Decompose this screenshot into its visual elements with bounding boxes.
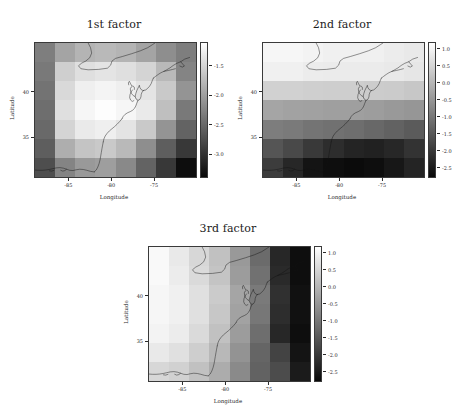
- heatmap-cell: [384, 120, 404, 139]
- heatmap-cell: [169, 304, 189, 323]
- heatmap-cell: [384, 100, 404, 119]
- heatmap-cell: [270, 304, 290, 323]
- colorbar-tick: -2.0: [437, 148, 452, 154]
- heatmap-cell: [156, 120, 176, 139]
- tick-mark: [437, 65, 440, 66]
- heatmap-cell: [176, 62, 196, 81]
- colorbar-tick-label: 0.0: [442, 80, 450, 86]
- colorbar-tick-label: -2.0: [442, 148, 452, 154]
- heatmap-cell: [75, 100, 95, 119]
- figure-canvas: 1st factor 4035 Latitude -85-80-75 Longi…: [0, 0, 456, 418]
- heatmap-cell: [270, 343, 290, 362]
- heatmap-cell: [230, 247, 250, 266]
- colorbar-tick-label: -3.0: [214, 151, 224, 157]
- heatmap-cell: [404, 62, 424, 81]
- heatmap-cell: [75, 158, 95, 177]
- colorbar-tick-label: 1.0: [442, 46, 450, 52]
- colorbar-tick-label: -1.5: [328, 335, 338, 341]
- heatmap-cell: [35, 81, 55, 100]
- panel-2-x-axis: -85-80-75: [262, 178, 425, 192]
- heatmap-cell: [55, 158, 75, 177]
- heatmap-cell: [149, 285, 169, 304]
- colorbar-tick: -1.0: [323, 318, 338, 324]
- tick-mark: [209, 95, 212, 96]
- heatmap-cell: [323, 158, 343, 177]
- tick-mark: [259, 137, 262, 138]
- heatmap-cell: [75, 62, 95, 81]
- panel-3-colorbar-gradient: [315, 247, 321, 381]
- heatmap-cell: [323, 100, 343, 119]
- tick-mark: [323, 252, 326, 253]
- tick-mark: [145, 341, 148, 342]
- tick-mark: [225, 382, 226, 385]
- heatmap-cell: [323, 62, 343, 81]
- tick-mark: [209, 154, 212, 155]
- panel-2-y-axis-label: Latitude: [237, 88, 243, 128]
- colorbar-tick: -1.0: [437, 114, 452, 120]
- panel-3-x-axis-label: Longitude: [114, 398, 342, 404]
- heatmap-cell: [364, 100, 384, 119]
- tick-mark: [111, 178, 112, 181]
- heatmap-cell: [136, 81, 156, 100]
- x-axis-tick: -85: [292, 178, 300, 188]
- colorbar-tick: -2.0: [323, 352, 338, 358]
- heatmap-cell: [55, 120, 75, 139]
- heatmap-cell: [404, 81, 424, 100]
- heatmap-cell: [169, 266, 189, 285]
- heatmap-cell: [384, 158, 404, 177]
- panel-2-plot-area: [262, 42, 425, 178]
- heatmap-cell: [364, 81, 384, 100]
- panel-3-colorbar: [314, 246, 322, 382]
- heatmap-cell: [136, 139, 156, 158]
- x-axis-tick-label: -85: [292, 182, 300, 188]
- y-axis-tick: 40: [128, 293, 148, 299]
- panel-3-colorbar-group: 1.00.50.0-0.5-1.0-1.5-2.0-2.5: [314, 246, 342, 382]
- heatmap-cell: [136, 62, 156, 81]
- heatmap-cell: [404, 43, 424, 62]
- heatmap-cell: [75, 120, 95, 139]
- heatmap-cell: [404, 139, 424, 158]
- heatmap-cell: [169, 285, 189, 304]
- heatmap-cell: [290, 247, 310, 266]
- heatmap-cell: [189, 304, 209, 323]
- panel-1-y-axis: 4035: [14, 42, 34, 178]
- x-axis-tick: -80: [221, 382, 229, 392]
- x-axis-tick-label: -75: [378, 182, 386, 188]
- heatmap-cell: [303, 62, 323, 81]
- heatmap-cell: [303, 139, 323, 158]
- panel-1-x-axis-label: Longitude: [0, 194, 228, 200]
- tick-mark: [323, 320, 326, 321]
- tick-mark: [296, 178, 297, 181]
- heatmap-cell: [283, 62, 303, 81]
- panel-2-x-axis-label: Longitude: [228, 194, 456, 200]
- y-axis-tick: 35: [128, 338, 148, 344]
- heatmap-cell: [344, 158, 364, 177]
- tick-mark: [437, 82, 440, 83]
- heatmap-cell: [156, 158, 176, 177]
- heatmap-cell: [344, 100, 364, 119]
- panel-3-x-axis: -85-80-75: [148, 382, 311, 396]
- panel-3-colorbar-ticks: 1.00.50.0-0.5-1.0-1.5-2.0-2.5: [323, 246, 349, 382]
- heatmap-cell: [303, 158, 323, 177]
- heatmap-cell: [156, 100, 176, 119]
- heatmap-cell: [344, 62, 364, 81]
- heatmap-cell: [230, 343, 250, 362]
- heatmap-cell: [55, 43, 75, 62]
- heatmap-cell: [384, 62, 404, 81]
- heatmap-cell: [149, 304, 169, 323]
- x-axis-tick: -75: [264, 382, 272, 392]
- tick-mark: [323, 354, 326, 355]
- x-axis-tick-label: -75: [264, 386, 272, 392]
- heatmap-cell: [364, 62, 384, 81]
- heatmap-cell: [270, 247, 290, 266]
- heatmap-cell: [323, 120, 343, 139]
- y-axis-tick: 40: [242, 89, 262, 95]
- tick-mark: [31, 137, 34, 138]
- heatmap-cell: [176, 120, 196, 139]
- heatmap-cell: [75, 43, 95, 62]
- heatmap-cell: [176, 139, 196, 158]
- heatmap-cell: [230, 266, 250, 285]
- colorbar-tick: -2.5: [323, 369, 338, 375]
- y-axis-tick-label: 35: [251, 134, 257, 140]
- x-axis-tick-label: -85: [64, 182, 72, 188]
